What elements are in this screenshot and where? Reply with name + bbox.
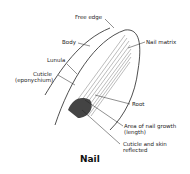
label-lunula: Lunula [47,57,65,63]
label-body: Body [62,39,76,45]
label-cuticle-reflected-2: reflected [123,147,147,153]
diagram-title: Nail [80,154,100,164]
label-nail-matrix: Nail matrix [146,39,176,45]
label-free-edge: Free edge [75,14,102,20]
nail-illustration [0,0,190,174]
label-eponychium: (eponychium) [15,77,53,83]
label-growth-area-2: (length) [124,129,146,135]
label-root: Root [132,101,144,107]
